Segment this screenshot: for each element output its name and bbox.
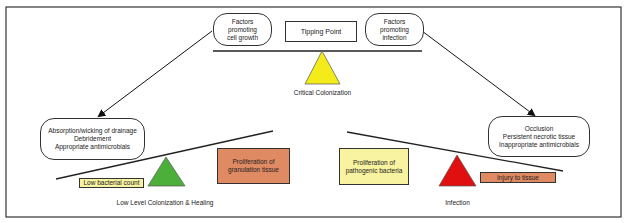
arrow-to-interventions	[99, 31, 212, 116]
green-fulcrum-triangle	[148, 157, 185, 186]
interventions-pill: Absorption/wicking of drainage Debrideme…	[40, 118, 145, 160]
red-fulcrum-triangle	[439, 155, 476, 186]
infection-factors-pill: Occlusion Persistent necrotic tissue Ina…	[488, 116, 590, 157]
factors-cell-growth-pill: Factors promoting cell growth	[213, 13, 272, 46]
infection-caption: Infection	[430, 198, 485, 208]
low-bacterial-count-box: Low bacterial count	[79, 178, 144, 188]
critical-colonization-label: Critical Colonization	[280, 88, 365, 98]
yellow-fulcrum-triangle	[305, 51, 340, 84]
granulation-tissue-box: Proliferation of granulation tissue	[217, 148, 290, 184]
tipping-point-box: Tipping Point	[285, 21, 357, 42]
injury-to-tissue-box: Injury to tissue	[480, 172, 556, 183]
pathogenic-bacteria-box: Proliferation of pathogenic bacteria	[339, 148, 409, 185]
healing-caption: Low Level Colonization & Healing	[100, 198, 230, 208]
factors-infection-pill: Factors promoting infection	[365, 13, 424, 46]
arrow-to-infection-factors	[422, 31, 534, 115]
